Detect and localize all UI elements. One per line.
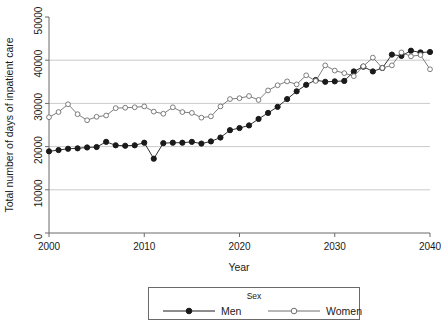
data-point — [218, 104, 223, 109]
data-point — [227, 128, 232, 133]
data-point — [342, 71, 347, 76]
filled-circle-icon — [186, 308, 192, 314]
data-point — [256, 98, 261, 103]
data-point — [275, 104, 280, 109]
data-point — [180, 140, 185, 145]
data-point — [390, 63, 395, 68]
y-tick-label: 50000 — [33, 6, 44, 34]
data-point — [56, 147, 61, 152]
data-point — [218, 135, 223, 140]
data-point — [370, 69, 375, 74]
y-tick-label: 30000 — [33, 93, 44, 121]
y-tick-label: 20000 — [33, 136, 44, 164]
data-point — [113, 106, 118, 111]
data-point — [151, 109, 156, 114]
data-point — [304, 82, 309, 87]
data-point — [228, 97, 233, 102]
data-point — [123, 105, 128, 110]
x-tick-label: 2040 — [419, 241, 441, 252]
data-point — [75, 112, 80, 117]
data-point — [351, 74, 356, 79]
data-point — [266, 88, 271, 93]
data-point — [189, 111, 194, 116]
data-point — [237, 96, 242, 101]
chart-container: 01000020000300004000050000 2000201020202… — [0, 0, 441, 328]
data-point — [285, 96, 290, 101]
legend-title: Sex — [247, 291, 262, 301]
data-point — [256, 116, 261, 121]
data-point — [370, 55, 375, 60]
y-tick-label: 40000 — [33, 49, 44, 77]
data-point — [104, 113, 109, 118]
data-point — [409, 54, 414, 59]
data-point — [323, 63, 328, 68]
open-circle-icon — [291, 308, 297, 314]
data-point — [189, 139, 194, 144]
data-point — [151, 156, 156, 161]
data-point — [47, 115, 52, 120]
data-point — [123, 143, 128, 148]
data-point — [208, 139, 213, 144]
x-tick-label: 2000 — [38, 241, 61, 252]
data-point — [332, 79, 337, 84]
x-tick-label: 2030 — [324, 241, 347, 252]
data-point — [170, 140, 175, 145]
data-point — [85, 118, 90, 123]
data-point — [75, 146, 80, 151]
data-point — [199, 141, 204, 146]
data-point — [265, 110, 270, 115]
data-point — [85, 145, 90, 150]
x-tick-label: 2020 — [228, 241, 251, 252]
data-point — [113, 143, 118, 148]
data-point — [142, 104, 147, 109]
data-point — [161, 111, 166, 116]
x-axis-title: Year — [228, 261, 250, 273]
data-point — [104, 139, 109, 144]
data-point — [142, 140, 147, 145]
data-point — [56, 110, 61, 115]
data-point — [237, 125, 242, 130]
legend-label-men: Men — [221, 305, 242, 317]
data-point — [132, 143, 137, 148]
data-point — [323, 79, 328, 84]
data-point — [428, 67, 433, 72]
data-point — [389, 52, 394, 57]
legend-label-women: Women — [326, 305, 362, 317]
data-point — [132, 105, 137, 110]
data-point — [209, 114, 214, 119]
data-point — [427, 49, 432, 54]
data-point — [399, 50, 404, 55]
data-point — [408, 48, 413, 53]
data-point — [66, 102, 71, 107]
data-point — [94, 144, 99, 149]
inpatient-care-line-chart: 01000020000300004000050000 2000201020202… — [0, 0, 441, 328]
data-point — [342, 78, 347, 83]
data-point — [294, 82, 299, 87]
data-point — [275, 83, 280, 88]
data-point — [247, 94, 252, 99]
data-point — [361, 64, 366, 69]
data-point — [65, 146, 70, 151]
data-point — [380, 66, 385, 71]
y-tick-label: 0 — [33, 233, 44, 239]
data-point — [199, 115, 204, 120]
x-tick-label: 2010 — [133, 241, 156, 252]
data-point — [313, 79, 318, 84]
data-point — [170, 105, 175, 110]
data-point — [94, 114, 99, 119]
data-point — [332, 68, 337, 73]
data-point — [294, 89, 299, 94]
data-point — [161, 141, 166, 146]
chart-background — [0, 0, 441, 328]
data-point — [46, 149, 51, 154]
data-point — [180, 110, 185, 115]
data-point — [351, 69, 356, 74]
data-point — [285, 79, 290, 84]
data-point — [246, 123, 251, 128]
y-tick-label: 10000 — [33, 179, 44, 207]
y-axis-title: Total number of days of inpatient care — [3, 37, 15, 212]
data-point — [418, 53, 423, 58]
data-point — [304, 73, 309, 78]
